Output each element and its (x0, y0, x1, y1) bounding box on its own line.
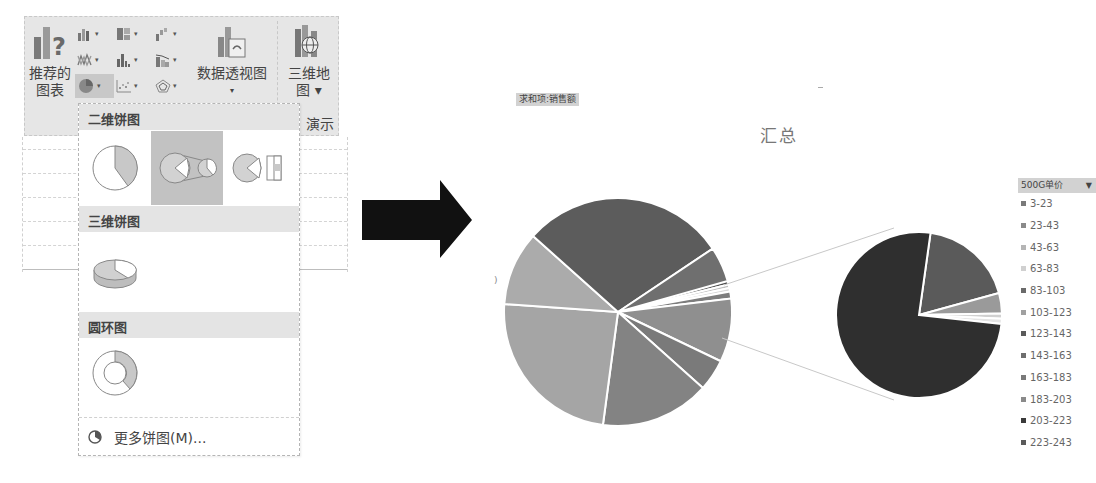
legend-label: 23-43 (1030, 220, 1059, 231)
recommended-charts-icon: ? (30, 23, 70, 61)
pie-icon (90, 143, 140, 193)
column-chart-icon (77, 27, 93, 41)
doughnut-icon (90, 348, 140, 398)
insert-hierarchy-chart-button[interactable]: ▾ (114, 22, 153, 46)
dropdown-caret-icon: ▼ (1086, 178, 1092, 193)
insert-waterfall-chart-button[interactable]: ▾ (153, 22, 192, 46)
legend-swatch-icon (1021, 245, 1026, 250)
legend-swatch-icon (1021, 310, 1026, 315)
insert-scatter-chart-button[interactable]: ▾ (114, 74, 153, 98)
legend-label: 163-183 (1030, 372, 1072, 383)
legend-item[interactable]: 83-103 (1018, 280, 1096, 302)
pie-of-pie-chart: ) (490, 160, 1010, 450)
legend-item[interactable]: 163-183 (1018, 367, 1096, 389)
section-header-2d-pie: 二维饼图 (79, 104, 299, 130)
more-pie-charts-menu-item[interactable]: 更多饼图(M)... (79, 417, 299, 455)
legend-item[interactable]: 143-163 (1018, 345, 1096, 367)
stray-mark (818, 87, 823, 88)
insert-statistic-chart-button[interactable]: ▾ (114, 48, 153, 72)
main-pie[interactable] (504, 198, 732, 426)
legend-swatch-icon (1021, 375, 1026, 380)
legend-label: 223-243 (1030, 437, 1072, 448)
svg-text:?: ? (52, 33, 66, 61)
pie-slice[interactable] (504, 304, 618, 425)
value-field-button[interactable]: 求和项:销售额 (516, 93, 579, 106)
legend-item[interactable]: 203-223 (1018, 410, 1096, 432)
3d-map-icon (291, 23, 327, 61)
legend-label: 43-63 (1030, 242, 1059, 253)
bar-of-pie-icon (227, 146, 291, 190)
legend-label: 3-23 (1030, 198, 1053, 209)
pivot-chart-button[interactable]: 数据透视图 ▾ (193, 23, 271, 99)
legend-item[interactable]: 3-23 (1018, 193, 1096, 215)
3d-pie-chart-option[interactable] (79, 235, 151, 309)
pie-small-icon (88, 430, 102, 444)
legend-item[interactable]: 63-83 (1018, 258, 1096, 280)
tours-group-label: 演示 (306, 113, 334, 133)
pie-of-pie-icon (155, 146, 219, 190)
legend-label: 123-143 (1030, 328, 1072, 339)
legend-swatch-icon (1021, 440, 1026, 445)
3d-map-button[interactable]: 三维地 图 ▾ (281, 23, 337, 99)
legend-label: 183-203 (1030, 394, 1072, 405)
legend-item[interactable]: 123-143 (1018, 323, 1096, 345)
legend-item[interactable]: 103-123 (1018, 301, 1096, 323)
legend-swatch-icon (1021, 418, 1026, 423)
chart-legend: 500G单价 ▼ 3-2323-4343-6363-8383-103103-12… (1018, 178, 1096, 453)
insert-line-chart-button[interactable]: ▾ (75, 48, 114, 72)
insert-combo-chart-button[interactable]: ▾ (153, 48, 192, 72)
legend-item[interactable]: 43-63 (1018, 236, 1096, 258)
section-header-3d-pie: 三维饼图 (79, 206, 299, 232)
pie-of-pie-chart-option[interactable] (151, 131, 223, 205)
section-header-doughnut: 圆环图 (79, 312, 299, 338)
legend-label: 143-163 (1030, 350, 1072, 361)
legend-label: 103-123 (1030, 307, 1072, 318)
legend-label: 203-223 (1030, 415, 1072, 426)
pivot-chart-icon (214, 23, 250, 61)
right-arrow-icon (362, 180, 472, 260)
category-field-button[interactable]: 500G单价 ▼ (1018, 178, 1096, 193)
line-chart-icon (77, 53, 93, 67)
recommended-charts-button[interactable]: ? 推荐的 图表 (27, 23, 73, 99)
bar-of-pie-chart-option[interactable] (223, 131, 295, 205)
pie-chart-gallery-dropdown: 二维饼图 (78, 103, 300, 456)
legend-item[interactable]: 23-43 (1018, 215, 1096, 237)
insert-radar-chart-button[interactable]: ▾ (153, 74, 192, 98)
legend-swatch-icon (1021, 223, 1026, 228)
combo-chart-icon (155, 53, 171, 67)
doughnut-chart-option[interactable] (79, 340, 151, 406)
legend-swatch-icon (1021, 353, 1026, 358)
3d-pie-icon (90, 250, 140, 294)
legend-item[interactable]: 183-203 (1018, 388, 1096, 410)
legend-label: 63-83 (1030, 263, 1059, 274)
stray-label: ) (494, 275, 498, 285)
secondary-pie[interactable] (836, 232, 1002, 398)
legend-label: 83-103 (1030, 285, 1065, 296)
legend-item[interactable]: 223-243 (1018, 432, 1096, 454)
insert-column-chart-button[interactable]: ▾ (75, 22, 114, 46)
gallery-row-doughnut (79, 338, 299, 408)
gallery-row-3d-pie (79, 232, 299, 312)
statistic-chart-icon (116, 53, 132, 67)
legend-swatch-icon (1021, 266, 1026, 271)
chart-title: 汇总 (760, 122, 798, 147)
pie-chart-icon (77, 78, 95, 94)
radar-chart-icon (155, 79, 171, 93)
insert-pie-chart-button[interactable]: ▾ (75, 74, 114, 98)
legend-swatch-icon (1021, 397, 1026, 402)
legend-swatch-icon (1021, 201, 1026, 206)
gallery-row-2d-pie (79, 130, 299, 206)
waterfall-chart-icon (155, 27, 171, 41)
legend-swatch-icon (1021, 288, 1026, 293)
hierarchy-chart-icon (116, 27, 132, 41)
legend-swatch-icon (1021, 331, 1026, 336)
chart-type-grid: ▾ ▾ ▾ ▾ ▾ ▾ ▾ ▾ (75, 21, 193, 99)
pie-chart-option[interactable] (79, 131, 151, 205)
scatter-chart-icon (116, 79, 132, 93)
